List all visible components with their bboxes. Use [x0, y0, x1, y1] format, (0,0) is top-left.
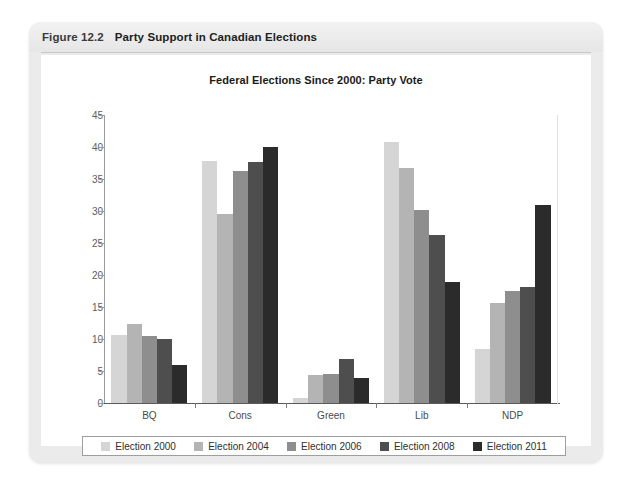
y-axis-tick-label: 25	[59, 238, 103, 249]
x-axis-line	[104, 403, 560, 404]
bar	[233, 171, 248, 403]
x-axis-tick-label: Lib	[415, 410, 428, 421]
bar	[535, 205, 550, 403]
figure-title: Party Support in Canadian Elections	[115, 31, 317, 43]
bar	[323, 374, 338, 403]
legend-swatch	[473, 442, 482, 451]
bar	[293, 398, 308, 403]
legend-item[interactable]: Election 2008	[380, 441, 455, 452]
legend-label: Election 2006	[301, 441, 362, 452]
x-axis-tick-mark	[195, 403, 196, 408]
chart-legend: Election 2000Election 2004Election 2006E…	[82, 436, 566, 456]
chart-title: Federal Elections Since 2000: Party Vote	[41, 74, 591, 86]
bar	[354, 378, 369, 403]
bar	[308, 375, 323, 403]
bar	[248, 162, 263, 403]
legend-swatch	[287, 442, 296, 451]
legend-item[interactable]: Election 2004	[194, 441, 269, 452]
y-axis-tick-label: 35	[59, 174, 103, 185]
x-axis-tick-mark	[467, 403, 468, 408]
legend-swatch	[194, 442, 203, 451]
x-axis-tick-mark	[376, 403, 377, 408]
x-axis-tick-mark	[286, 403, 287, 408]
chart-panel: Federal Elections Since 2000: Party Vote…	[41, 55, 591, 446]
bar	[490, 303, 505, 403]
bar	[217, 214, 232, 403]
figure-header: Figure 12.2 Party Support in Canadian El…	[29, 22, 603, 52]
legend-label: Election 2000	[115, 441, 176, 452]
bar	[339, 359, 354, 403]
plot-area	[104, 115, 558, 403]
bar	[429, 235, 444, 403]
y-axis-tick-label: 20	[59, 270, 103, 281]
bar	[202, 161, 217, 403]
bar	[399, 168, 414, 403]
legend-item[interactable]: Election 2000	[101, 441, 176, 452]
x-axis-tick-label: Green	[317, 410, 345, 421]
x-axis-tick-label: Cons	[229, 410, 252, 421]
bar	[520, 287, 535, 403]
y-axis-tick-label: 10	[59, 334, 103, 345]
bar	[111, 335, 126, 403]
bar	[172, 365, 187, 403]
bar	[414, 210, 429, 403]
bar	[445, 282, 460, 403]
legend-label: Election 2011	[487, 441, 547, 452]
y-axis-tick-label: 15	[59, 302, 103, 313]
bar	[505, 291, 520, 403]
bar	[475, 349, 490, 403]
legend-label: Election 2004	[208, 441, 269, 452]
legend-swatch	[101, 442, 110, 451]
bar	[384, 142, 399, 403]
legend-swatch	[380, 442, 389, 451]
bar	[263, 147, 278, 403]
y-axis-tick-mark	[99, 403, 104, 404]
legend-item[interactable]: Election 2011	[473, 441, 547, 452]
x-axis-tick-label: NDP	[502, 410, 523, 421]
figure-header-divider	[41, 52, 591, 53]
bar	[127, 324, 142, 403]
figure-number: Figure 12.2	[42, 31, 104, 43]
y-axis-tick-label: 5	[59, 366, 103, 377]
y-axis-tick-label: 40	[59, 142, 103, 153]
figure-card: Figure 12.2 Party Support in Canadian El…	[29, 22, 603, 462]
bar	[157, 339, 172, 403]
x-axis-tick-label: BQ	[142, 410, 156, 421]
bar	[142, 336, 157, 403]
legend-label: Election 2008	[394, 441, 455, 452]
y-axis-tick-label: 0	[59, 398, 103, 409]
y-axis-tick-label: 30	[59, 206, 103, 217]
y-axis-tick-label: 45	[59, 110, 103, 121]
legend-item[interactable]: Election 2006	[287, 441, 362, 452]
